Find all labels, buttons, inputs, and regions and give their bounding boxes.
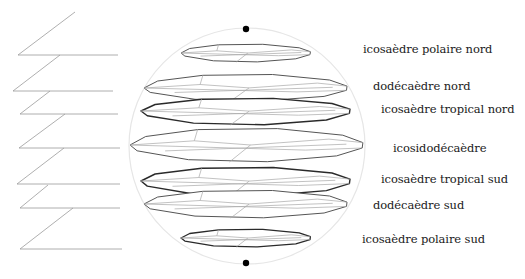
polyhedra-diagram: icosaèdre polaire nord dodécaèdre nord i…	[0, 0, 525, 279]
profile-step	[20, 91, 118, 114]
label-dodecaedre-sud: dodécaèdre sud	[373, 200, 464, 212]
profile-step	[13, 55, 113, 91]
profile-step	[18, 12, 118, 55]
profile-step	[19, 114, 120, 148]
profile-step	[20, 185, 120, 208]
polyhedron-icosaedre-polaire-sud	[181, 229, 310, 247]
polyhedron-icosaedre-tropical-nord	[141, 98, 350, 125]
label-icosaedre-polaire-sud: icosaèdre polaire sud	[362, 234, 485, 246]
polyhedron-dodecaedre-sud	[144, 191, 347, 219]
polyhedron-icosaedre-polaire-nord	[181, 44, 310, 62]
profile-step	[17, 148, 120, 184]
polyhedra-layers	[130, 44, 363, 247]
north-pole-dot-icon	[243, 26, 249, 32]
polyhedron-icosidodecaedre	[130, 129, 363, 162]
label-icosaedre-tropical-nord: icosaèdre tropical nord	[381, 104, 515, 116]
profile-step	[20, 208, 122, 249]
polyhedron-dodecaedre-nord	[144, 75, 347, 102]
south-pole-dot-icon	[243, 260, 249, 266]
label-icosidodecaedre: icosidodécaèdre	[393, 143, 486, 155]
label-icosaedre-polaire-nord: icosaèdre polaire nord	[363, 44, 492, 56]
label-icosaedre-tropical-sud: icosaèdre tropical sud	[381, 174, 508, 186]
side-profile-lines	[13, 12, 122, 249]
label-dodecaedre-nord: dodécaèdre nord	[373, 81, 471, 93]
